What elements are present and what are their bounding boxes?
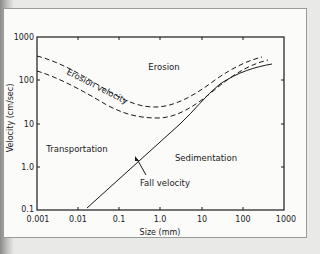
arrow-head-icon bbox=[135, 156, 139, 161]
region-sedimentation-label: Sedimentation bbox=[175, 153, 237, 163]
hjulstrom-chart: 1000 100 10 1.0 0.1 0.001 0.01 0.1 1.0 1… bbox=[0, 0, 320, 254]
y-tick-0.1: 0.1 bbox=[21, 205, 34, 214]
x-tick-1.0: 1.0 bbox=[154, 215, 167, 224]
x-tick-100: 100 bbox=[235, 215, 250, 224]
y-tick-1000: 1000 bbox=[14, 33, 34, 42]
erosion-velocity-label: Erosion velocity bbox=[65, 67, 129, 106]
x-axis-title: Size (mm) bbox=[140, 228, 181, 237]
y-tick-1: 1.0 bbox=[21, 163, 34, 172]
x-tick-0.1: 0.1 bbox=[113, 215, 126, 224]
x-tick-0.001: 0.001 bbox=[27, 215, 50, 224]
y-axis-title: Velocity (cm/sec) bbox=[6, 84, 15, 153]
y-tick-10: 10 bbox=[24, 120, 34, 129]
region-erosion-label: Erosion bbox=[148, 62, 179, 72]
region-transportation-label: Transportation bbox=[45, 144, 107, 154]
y-tick-100: 100 bbox=[19, 76, 34, 85]
x-tick-10: 10 bbox=[197, 215, 207, 224]
fall-velocity-label: Fall velocity bbox=[140, 178, 190, 188]
x-tick-1000: 1000 bbox=[276, 215, 296, 224]
x-tick-0.01: 0.01 bbox=[69, 215, 87, 224]
fall-velocity-arrow bbox=[137, 159, 146, 175]
